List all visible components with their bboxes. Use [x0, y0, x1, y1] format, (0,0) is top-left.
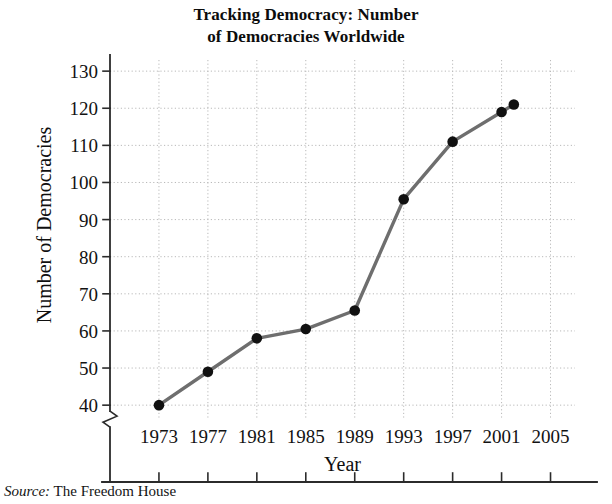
source-note: Source: The Freedom House: [4, 482, 176, 500]
x-tick-label: 2005: [521, 427, 581, 446]
source-value: The Freedom House: [50, 483, 176, 499]
chart-figure: Tracking Democracy: Number of Democracie…: [0, 0, 612, 504]
source-label: Source:: [4, 483, 50, 499]
x-axis-tick-labels: 197319771981198519891993199720012005: [0, 0, 612, 504]
x-axis-title: Year: [110, 453, 575, 475]
y-axis-title: Number of Democracies: [33, 95, 55, 355]
